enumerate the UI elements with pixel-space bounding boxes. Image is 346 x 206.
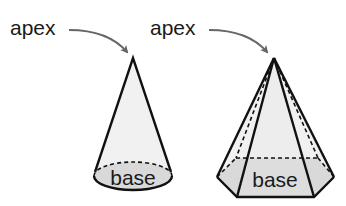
- cone: base: [94, 58, 172, 190]
- pyramid-base-label: base: [252, 168, 298, 191]
- cone-apex-arrow: [69, 30, 127, 52]
- cone-apex-label: apex: [10, 16, 56, 39]
- pyramid-apex-label: apex: [150, 16, 196, 39]
- pyramid-apex-arrow: [209, 30, 267, 52]
- solids-diagram: base apex base apex: [0, 0, 346, 206]
- cone-base-label: base: [110, 166, 156, 189]
- hexagonal-pyramid: base: [217, 58, 334, 197]
